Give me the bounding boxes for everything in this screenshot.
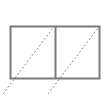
diagram-svg [0, 0, 108, 99]
diagram-canvas [0, 0, 108, 99]
